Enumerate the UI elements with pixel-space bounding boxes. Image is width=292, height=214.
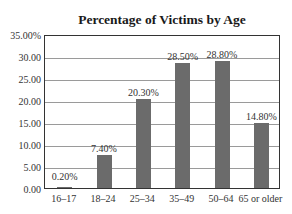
plot-area: 0.20%7.40%20.30%28.50%28.80%14.80% — [44, 35, 280, 189]
y-tick-label: 25.00 — [0, 74, 41, 85]
y-tick-label: 5.00 — [0, 162, 41, 173]
gridline — [45, 102, 279, 103]
bar — [175, 63, 190, 188]
y-tick-label: 15.00 — [0, 118, 41, 129]
bar-value-label: 28.80% — [197, 49, 247, 60]
gridline — [45, 168, 279, 169]
bar — [215, 61, 230, 188]
bar-value-label: 20.30% — [118, 87, 168, 98]
y-tick-label: 35.00% — [0, 30, 41, 41]
x-tick-label: 65 or older — [230, 193, 290, 204]
bar-value-label: 7.40% — [79, 143, 129, 154]
gridline — [45, 124, 279, 125]
y-tick-label: 20.00 — [0, 96, 41, 107]
y-tick-label: 10.00 — [0, 140, 41, 151]
chart-title: Percentage of Victims by Age — [44, 12, 280, 28]
bar — [97, 155, 112, 188]
bar-value-label: 0.20% — [40, 171, 90, 182]
bar — [57, 187, 72, 188]
y-tick-label: 30.00 — [0, 52, 41, 63]
bar-value-label: 14.80% — [236, 111, 286, 122]
bar — [136, 99, 151, 188]
gridline — [45, 80, 279, 81]
bar — [254, 123, 269, 188]
